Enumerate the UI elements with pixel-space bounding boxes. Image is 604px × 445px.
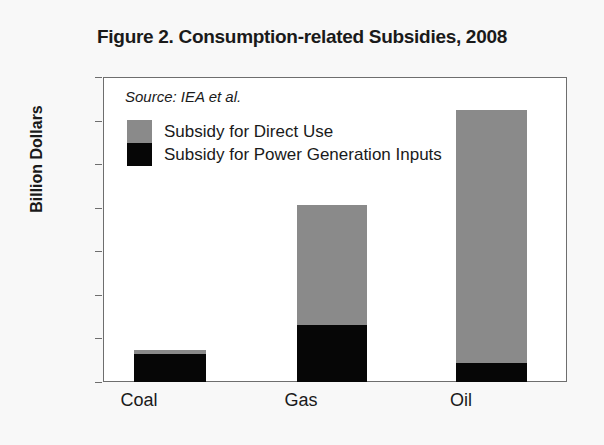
bar-gas[interactable] — [297, 205, 367, 382]
legend: Subsidy for Direct Use Subsidy for Power… — [127, 120, 442, 166]
plot-area: 350 300 250 200 150 100 50 0 Source — [103, 77, 567, 382]
y-tick-mark-0 — [95, 382, 102, 383]
legend-item-direct-use[interactable]: Subsidy for Direct Use — [127, 120, 442, 143]
legend-label-power-generation: Subsidy for Power Generation Inputs — [164, 146, 442, 163]
y-tick-mark-350 — [95, 77, 102, 78]
bar-gas-segment-direct-use[interactable] — [297, 205, 367, 324]
bar-coal[interactable] — [134, 350, 206, 382]
y-axis-title: Billion Dollars — [28, 59, 46, 259]
bar-oil-segment-direct-use[interactable] — [456, 110, 527, 363]
figure-container: Figure 2. Consumption-related Subsidies,… — [0, 0, 604, 445]
legend-item-power-generation[interactable]: Subsidy for Power Generation Inputs — [127, 143, 442, 166]
bar-gas-segment-power-generation[interactable] — [297, 325, 367, 383]
legend-label-direct-use: Subsidy for Direct Use — [164, 123, 333, 140]
bar-coal-segment-power-generation[interactable] — [134, 354, 206, 382]
legend-swatch-power-generation — [127, 143, 152, 166]
x-tick-label-coal: Coal — [94, 390, 184, 411]
y-tick-mark-200 — [95, 208, 102, 209]
y-tick-mark-100 — [95, 295, 102, 296]
y-tick-mark-50 — [95, 338, 102, 339]
bar-oil-segment-power-generation[interactable] — [456, 363, 527, 382]
source-note: Source: IEA et al. — [125, 88, 241, 105]
y-tick-mark-150 — [95, 251, 102, 252]
x-tick-label-gas: Gas — [256, 390, 346, 411]
bar-oil[interactable] — [456, 110, 527, 382]
y-tick-mark-300 — [95, 121, 102, 122]
legend-swatch-direct-use — [127, 120, 152, 143]
y-tick-mark-250 — [95, 164, 102, 165]
x-tick-label-oil: Oil — [416, 390, 506, 411]
chart-title: Figure 2. Consumption-related Subsidies,… — [0, 26, 604, 48]
